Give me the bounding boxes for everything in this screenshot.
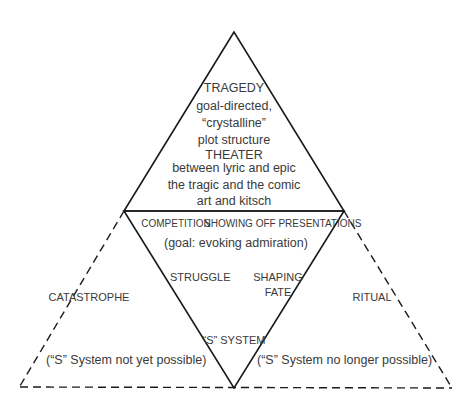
struggle-label: STRUGGLE	[170, 272, 230, 283]
tragedy-title: TRAGEDY	[184, 82, 284, 95]
ritual-label: RITUAL	[342, 292, 402, 303]
showing-off-label: SHOWING OFF PRESENTATIONS	[204, 219, 344, 229]
tragedy-line-3: plot structure	[174, 134, 294, 147]
fate-label: FATE	[248, 287, 308, 298]
tragedy-line-1: goal-directed,	[174, 100, 294, 113]
bottom-dashed-edge	[20, 387, 452, 388]
catastrophe-label: CATASTROPHE	[44, 292, 134, 303]
theater-line-3: art and kitsch	[174, 195, 294, 208]
s-system-label: “S” SYSTEM	[196, 335, 272, 346]
theater-line-1: between lyric and epic	[154, 162, 314, 175]
theater-line-2: the tragic and the comic	[149, 179, 319, 192]
tragedy-line-2: “crystalline”	[174, 117, 294, 130]
ritual-note: (“S” System no longer possible)	[257, 354, 427, 367]
catastrophe-note: (“S” System not yet possible)	[46, 354, 206, 367]
shaping-label: SHAPING	[248, 272, 308, 283]
goal-label: (goal: evoking admiration)	[164, 237, 304, 250]
theater-title: THEATER	[184, 149, 284, 162]
